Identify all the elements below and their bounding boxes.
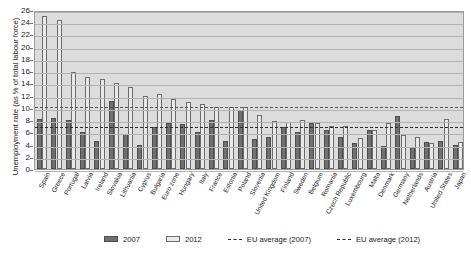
eu-average-2012-line [35, 107, 463, 108]
x-category-label: Japan [452, 171, 467, 190]
y-tick-mark [30, 97, 33, 98]
bar-2007 [295, 132, 300, 169]
gridline [35, 98, 463, 99]
y-tick-label: 14 [4, 79, 30, 88]
legend-swatch-2007-icon [104, 236, 118, 242]
bar-2007 [324, 130, 329, 169]
gridline [35, 147, 463, 148]
y-tick-mark [30, 146, 33, 147]
bar-2012 [157, 94, 162, 169]
x-category-label: Italy [197, 171, 209, 185]
unemployment-bar-chart: Unemployment rate (as % of total labour … [0, 0, 471, 253]
bar-2012 [85, 77, 90, 169]
bar-2007 [51, 118, 56, 169]
y-tick-label: 18 [4, 55, 30, 64]
y-tick-mark [30, 72, 33, 73]
bar-2012 [358, 138, 363, 169]
gridline [35, 24, 463, 25]
bar-2012 [372, 130, 377, 169]
legend-label: 2007 [123, 235, 140, 244]
gridline [35, 134, 463, 135]
y-tick-mark [30, 60, 33, 61]
bar-2012 [286, 122, 291, 169]
gridline [35, 85, 463, 86]
x-category-label: Estonia [221, 171, 238, 194]
gridline [35, 36, 463, 37]
legend-dashed-line-icon [228, 236, 242, 242]
bar-2007 [381, 146, 386, 169]
y-tick-mark [30, 23, 33, 24]
gridline [35, 49, 463, 50]
legend-item: EU average (2012) [337, 235, 420, 244]
gridline [35, 110, 463, 111]
y-tick-mark [30, 84, 33, 85]
bar-2007 [453, 145, 458, 169]
legend-item: 2012 [166, 235, 202, 244]
y-tick-label: 16 [4, 67, 30, 76]
y-tick-label: 6 [4, 128, 30, 137]
y-tick-label: 26 [4, 6, 30, 15]
bar-2012 [415, 137, 420, 169]
y-tick-mark [30, 11, 33, 12]
bar-2007 [238, 110, 243, 169]
bar-2007 [266, 137, 271, 169]
x-category-label: Spain [37, 171, 51, 189]
bar-2007 [281, 127, 286, 169]
bar-2007 [80, 132, 85, 169]
y-tick-mark [30, 158, 33, 159]
plot-area [34, 11, 464, 170]
bar-2007 [252, 139, 257, 169]
y-tick-label: 10 [4, 104, 30, 113]
bar-2012 [343, 126, 348, 169]
legend-item: 2007 [104, 235, 140, 244]
y-tick-label: 20 [4, 43, 30, 52]
y-tick-label: 4 [4, 141, 30, 150]
y-tick-mark [30, 170, 33, 171]
bar-2007 [152, 127, 157, 169]
legend-label: 2012 [185, 235, 202, 244]
bar-2007 [137, 145, 142, 169]
y-tick-label: 24 [4, 18, 30, 27]
bar-2007 [94, 141, 99, 169]
gridline [35, 73, 463, 74]
gridline [35, 61, 463, 62]
legend-dashed-line-icon [337, 236, 351, 242]
bar-2012 [100, 79, 105, 169]
bar-2007 [367, 130, 372, 169]
y-tick-mark [30, 109, 33, 110]
bar-2007 [195, 132, 200, 169]
legend-label: EU average (2012) [356, 235, 420, 244]
bar-2007 [338, 137, 343, 169]
legend-swatch-2012-icon [166, 236, 180, 242]
x-category-label: Latvia [80, 171, 94, 190]
y-tick-label: 12 [4, 92, 30, 101]
y-tick-mark [30, 35, 33, 36]
chart-legend: 20072012EU average (2007)EU average (201… [104, 231, 446, 247]
eu-average-2007-line [35, 127, 463, 128]
bar-2007 [438, 141, 443, 169]
bar-2007 [223, 141, 228, 169]
y-tick-label: 2 [4, 153, 30, 162]
x-category-label: Malta [367, 171, 381, 189]
bar-2012 [128, 87, 133, 169]
legend-item: EU average (2007) [228, 235, 311, 244]
bar-2012 [329, 126, 334, 169]
y-tick-mark [30, 48, 33, 49]
gridline [35, 12, 463, 13]
y-tick-label: 0 [4, 165, 30, 174]
bar-2007 [123, 134, 128, 169]
legend-label: EU average (2007) [247, 235, 311, 244]
bar-2007 [395, 116, 400, 169]
gridline [35, 159, 463, 160]
y-tick-label: 22 [4, 30, 30, 39]
gridline [35, 122, 463, 123]
bar-2012 [401, 135, 406, 169]
y-tick-mark [30, 133, 33, 134]
y-tick-mark [30, 121, 33, 122]
x-axis-category-labels: SpainGreecePortugalLatviaIrelandSlovakia… [34, 171, 464, 223]
y-tick-label: 8 [4, 116, 30, 125]
